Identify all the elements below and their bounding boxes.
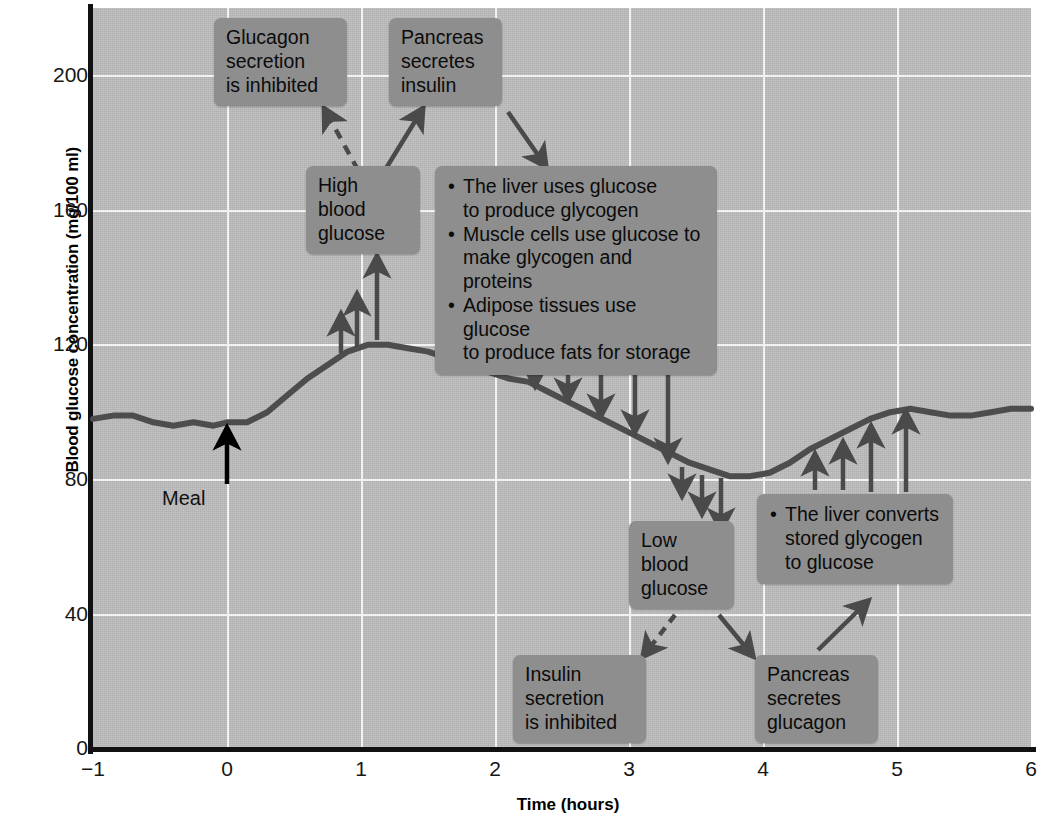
gridline-x-5: [897, 8, 899, 749]
insulin-effect-item: • The liver uses glucose to produce glyc…: [448, 175, 704, 223]
x-tick-5: 5: [867, 757, 927, 781]
insulin-effect-item: • Muscle cells use glucose to make glyco…: [448, 223, 704, 294]
insulin-effect-text: The liver uses glucose to produce glycog…: [463, 175, 704, 223]
glucagon-effect-text: The liver converts stored glycogen to gl…: [785, 503, 940, 574]
glucagon-effect-item: • The liver converts stored glycogen to …: [770, 503, 940, 574]
insulin-effect-item: • Adipose tissues use glucose to produce…: [448, 294, 704, 365]
plot-area: [93, 8, 1031, 749]
callout-glucagon-inhibited: Glucagon secretion is inhibited: [214, 18, 347, 106]
y-tick-40: 40: [26, 602, 88, 626]
x-tick-labels: −1 0 1 2 3 4 5 6: [0, 757, 1043, 791]
plot-texture: [93, 8, 1031, 749]
x-tick-0: 0: [197, 757, 257, 781]
insulin-effect-text: Adipose tissues use glucose to produce f…: [463, 294, 704, 365]
callout-high-blood-glucose: High blood glucose: [306, 166, 420, 254]
y-tick-200: 200: [26, 63, 88, 87]
gridline-x-3: [629, 8, 631, 749]
bullet-icon: •: [448, 223, 463, 247]
y-tick-labels: 0 40 80 120 160 200: [12, 0, 88, 837]
y-tick-160: 160: [26, 198, 88, 222]
y-axis-line: [88, 4, 93, 754]
x-axis-line: [88, 747, 1036, 752]
y-tick-120: 120: [26, 332, 88, 356]
callout-insulin-effects: • The liver uses glucose to produce glyc…: [435, 166, 717, 375]
callout-insulin-inhibited: Insulin secretion is inhibited: [513, 655, 646, 743]
x-tick-4: 4: [733, 757, 793, 781]
callout-pancreas-secretes-glucagon: Pancreas secretes glucagon: [755, 655, 878, 743]
insulin-effect-text: Muscle cells use glucose to make glycoge…: [463, 223, 704, 294]
bullet-icon: •: [448, 175, 463, 199]
callout-low-blood-glucose: Low blood glucose: [629, 521, 734, 609]
gridline-y-40: [93, 614, 1031, 616]
bullet-icon: •: [770, 503, 785, 527]
y-tick-80: 80: [26, 467, 88, 491]
gridline-x-2: [495, 8, 497, 749]
x-tick-3: 3: [599, 757, 659, 781]
gridline-y-80: [93, 479, 1031, 481]
gridline-x-1: [361, 8, 363, 749]
x-tick-2: 2: [465, 757, 525, 781]
x-tick-1: 1: [331, 757, 391, 781]
x-axis-title: Time (hours): [93, 795, 1043, 815]
bullet-icon: •: [448, 294, 463, 318]
callout-pancreas-secretes-insulin: Pancreas secretes insulin: [389, 18, 502, 106]
glucose-regulation-figure: Blood glucose concentration (mg/100 ml) …: [0, 0, 1043, 837]
x-tick-6: 6: [1001, 757, 1043, 781]
meal-label: Meal: [162, 487, 205, 510]
gridline-x-4: [763, 8, 765, 749]
callout-glucagon-effects: • The liver converts stored glycogen to …: [757, 494, 953, 584]
gridline-x-0: [227, 8, 229, 749]
x-tick-minus1: −1: [63, 757, 123, 781]
